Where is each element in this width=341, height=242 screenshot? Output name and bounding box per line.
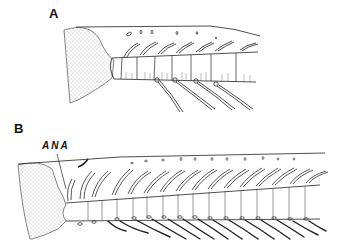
panel-b: B ANA [0, 121, 341, 242]
ana-leader-line [57, 154, 66, 189]
panel-a-drawing [0, 0, 341, 121]
panel-a: A [0, 0, 341, 121]
panel-b-drawing [0, 121, 341, 242]
